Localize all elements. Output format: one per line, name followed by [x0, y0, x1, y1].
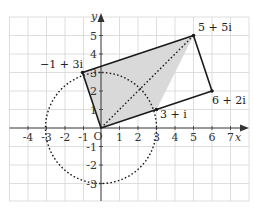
x-tick-labels: -4 -3 -2 -1 1 2 3 4 5 6 7 — [23, 131, 234, 144]
x-axis-arrow-icon — [240, 125, 249, 132]
x-tick: 7 — [227, 131, 234, 144]
label-neg1-3i: −1 + 3i — [40, 58, 83, 71]
label-3-i: 3 + i — [160, 108, 187, 121]
x-tick: -2 — [60, 131, 71, 144]
x-tick: 3 — [153, 131, 160, 144]
label-6-2i: 6 + 2i — [212, 94, 246, 107]
x-tick: 5 — [190, 131, 197, 144]
y-tick: -3 — [86, 178, 97, 191]
x-axis-label: x — [235, 131, 242, 144]
x-tick: 2 — [135, 131, 142, 144]
y-tick: 2 — [90, 85, 97, 98]
point-5-5i — [192, 34, 196, 38]
point-6-2i — [210, 89, 214, 93]
point-neg1-3i — [81, 71, 85, 75]
y-tick: 3 — [90, 67, 97, 80]
complex-plane-diagram: -4 -3 -2 -1 1 2 3 4 5 6 7 5 4 3 2 1 -1 -… — [0, 0, 254, 211]
label-5-5i: 5 + 5i — [198, 21, 232, 34]
y-tick: 1 — [90, 104, 97, 117]
x-tick: 4 — [172, 131, 179, 144]
point-3-i — [155, 108, 159, 112]
x-tick: -3 — [41, 131, 52, 144]
x-tick: 1 — [116, 131, 123, 144]
y-tick: -2 — [86, 159, 97, 172]
origin-label: O — [93, 130, 102, 143]
y-axis-label: y — [90, 10, 98, 23]
y-tick: 5 — [90, 30, 97, 43]
x-tick: 6 — [209, 131, 216, 144]
y-tick: 4 — [90, 48, 97, 61]
x-tick: -4 — [23, 131, 34, 144]
y-axis-arrow-icon — [98, 13, 105, 22]
